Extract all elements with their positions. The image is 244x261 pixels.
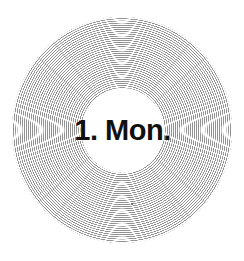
print-speck [131, 203, 133, 205]
center-label: 1. Mon. [81, 88, 164, 173]
label-text: 1. Mon. [74, 116, 170, 145]
